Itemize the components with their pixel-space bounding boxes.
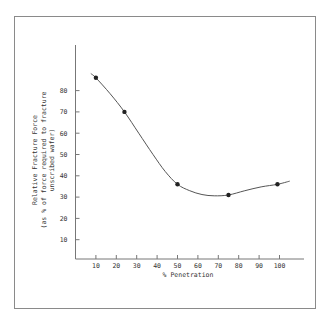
x-tick-label: 10: [92, 262, 100, 270]
y-tick-label: 10: [60, 236, 68, 244]
x-tick-label: 40: [153, 262, 161, 270]
x-tick-label: 80: [235, 262, 243, 270]
y-axis-title-line: Relative Fracture Force: [31, 115, 39, 205]
x-tick-label: 100: [274, 262, 286, 270]
data-point: [94, 76, 98, 80]
chart: 1020304050607080 102030405060708090100 %…: [0, 0, 330, 320]
data-point: [175, 182, 179, 186]
y-tick-label: 80: [60, 87, 68, 95]
y-axis-title-line: unscribed wafer): [48, 129, 56, 192]
y-axis-title: Relative Fracture Force(as % of force re…: [31, 91, 56, 228]
x-tick-label: 90: [255, 262, 263, 270]
data-point: [226, 193, 230, 197]
y-tick-label: 40: [60, 172, 68, 180]
series-curve: [91, 74, 290, 196]
x-axis-title: % Penetration: [163, 271, 214, 279]
data-points: [94, 76, 280, 198]
x-tick-label: 70: [214, 262, 222, 270]
axes: [76, 45, 305, 259]
y-tick-label: 60: [60, 130, 68, 138]
y-tick-label: 70: [60, 108, 68, 116]
x-tick-label: 50: [174, 262, 182, 270]
x-ticks: 102030405060708090100: [92, 255, 285, 270]
y-tick-label: 50: [60, 151, 68, 159]
y-tick-label: 30: [60, 193, 68, 201]
x-tick-label: 20: [112, 262, 120, 270]
x-tick-label: 30: [133, 262, 141, 270]
data-point: [122, 110, 126, 114]
data-point: [275, 182, 279, 186]
y-tick-label: 20: [60, 215, 68, 223]
y-ticks: 1020304050607080: [60, 87, 80, 244]
y-axis-title-line: (as % of force required to fracture: [40, 91, 48, 228]
x-tick-label: 60: [194, 262, 202, 270]
